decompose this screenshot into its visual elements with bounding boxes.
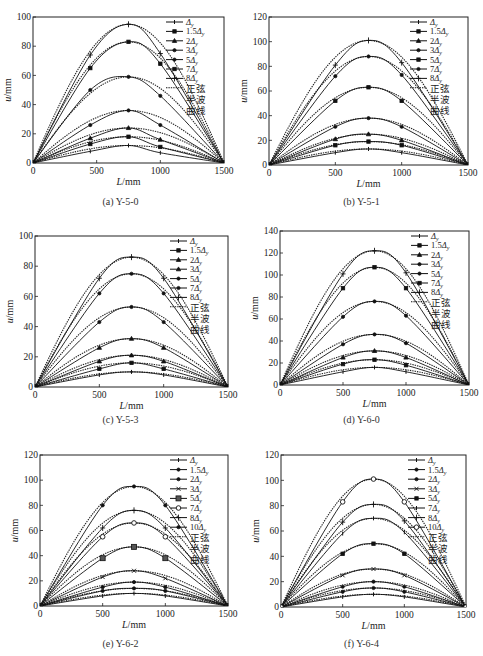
svg-text:100: 100 [265,476,280,486]
svg-text:0: 0 [262,160,267,170]
chart-svg-a: 050010001500020406080100L/mmu/mmΔy1.5Δy2… [0,0,241,195]
svg-text:0: 0 [33,601,38,611]
svg-text:120: 120 [264,248,279,258]
svg-text:正弦: 正弦 [430,83,450,94]
chart-svg-f: 050010001500020406080100120L/mmu/mmΔy1.5… [241,430,483,630]
svg-text:20: 20 [258,136,268,146]
svg-text:120: 120 [265,450,280,460]
svg-text:60: 60 [269,314,279,324]
svg-text:1500: 1500 [459,168,478,178]
svg-text:20: 20 [269,358,279,368]
svg-text:20: 20 [29,576,39,586]
svg-text:0: 0 [267,168,272,178]
svg-text:80: 80 [269,292,279,302]
svg-text:0: 0 [278,388,283,398]
svg-text:40: 40 [22,100,32,110]
panel-caption-c: (c) Y-5-3 [0,414,241,425]
svg-text:100: 100 [253,37,268,47]
svg-text:正弦: 正弦 [431,297,451,308]
chart-svg-e: 050010001500020406080100120L/mmu/mmΔy1.5… [0,430,241,630]
svg-text:1500: 1500 [219,609,238,619]
svg-text:L/mm: L/mm [116,176,141,187]
svg-text:20: 20 [270,577,280,587]
svg-text:100: 100 [19,231,34,241]
svg-text:1000: 1000 [392,168,411,178]
svg-text:半波: 半波 [190,313,210,324]
svg-text:40: 40 [270,552,280,562]
svg-text:500: 500 [328,168,343,178]
svg-text:L/mm: L/mm [362,398,387,409]
chart-panel-a: 050010001500020406080100L/mmu/mmΔy1.5Δy2… [0,0,241,215]
svg-text:40: 40 [269,336,279,346]
svg-text:140: 140 [264,226,279,236]
svg-text:80: 80 [22,41,32,51]
svg-text:1500: 1500 [215,166,234,176]
svg-text:L/mm: L/mm [121,619,146,630]
svg-text:8Δy: 8Δy [190,292,202,303]
chart-svg-d: 050010001500020406080100120140L/mmu/mmΔy… [241,215,483,410]
svg-text:8Δy: 8Δy [431,287,443,298]
svg-text:500: 500 [90,166,105,176]
svg-text:正弦: 正弦 [186,83,206,94]
svg-text:100: 100 [24,475,39,485]
svg-text:1500: 1500 [219,390,238,400]
chart-panel-d: 050010001500020406080100120140L/mmu/mmΔy… [241,215,482,430]
svg-text:1500: 1500 [457,610,476,620]
svg-text:u/mm: u/mm [9,519,20,543]
svg-text:500: 500 [92,390,107,400]
svg-text:0: 0 [26,158,31,168]
panel-caption-a: (a) Y-5-0 [0,196,241,207]
svg-text:500: 500 [96,609,111,619]
svg-text:60: 60 [24,292,34,302]
svg-text:曲线: 曲线 [430,105,450,116]
svg-text:u/mm: u/mm [241,79,249,103]
svg-text:80: 80 [258,62,268,72]
svg-text:0: 0 [279,610,284,620]
chart-panel-e: 050010001500020406080100120L/mmu/mmΔy1.5… [0,430,241,656]
svg-text:u/mm: u/mm [4,300,15,324]
chart-panel-c: 050010001500020406080100L/mmu/mmΔy1.5Δy2… [0,215,241,430]
svg-text:正弦: 正弦 [190,532,210,543]
svg-text:60: 60 [258,86,268,96]
svg-text:40: 40 [24,322,34,332]
svg-text:曲线: 曲线 [186,105,206,116]
svg-text:1000: 1000 [156,609,175,619]
svg-text:半波: 半波 [428,543,448,554]
svg-text:0: 0 [28,382,33,392]
svg-text:半波: 半波 [190,543,210,554]
svg-text:半波: 半波 [431,308,451,319]
svg-text:500: 500 [336,388,351,398]
svg-text:40: 40 [29,551,39,561]
svg-text:1000: 1000 [154,390,173,400]
svg-text:80: 80 [270,501,280,511]
svg-text:0: 0 [273,380,278,390]
svg-text:0: 0 [38,609,43,619]
svg-text:10Δy: 10Δy [190,522,207,533]
svg-text:曲线: 曲线 [190,554,210,565]
svg-text:120: 120 [24,450,39,460]
svg-text:正弦: 正弦 [190,302,210,313]
chart-panel-b: 050010001500020406080100120L/mmu/mmΔy1.5… [241,0,482,215]
svg-text:0: 0 [274,602,279,612]
panel-caption-f: (f) Y-6-4 [241,638,482,649]
svg-text:u/mm: u/mm [2,78,13,102]
svg-text:曲线: 曲线 [428,554,448,565]
svg-text:40: 40 [258,111,268,121]
svg-text:100: 100 [17,12,32,22]
svg-text:L/mm: L/mm [119,400,144,410]
svg-text:1500: 1500 [460,388,479,398]
svg-text:L/mm: L/mm [356,178,381,189]
svg-text:8Δy: 8Δy [186,73,198,84]
svg-text:u/mm: u/mm [249,296,260,320]
svg-text:8Δy: 8Δy [430,73,442,84]
panel-caption-d: (d) Y-6-0 [241,414,482,425]
chart-svg-c: 050010001500020406080100L/mmu/mmΔy1.5Δy2… [0,215,241,410]
svg-text:60: 60 [22,71,32,81]
svg-text:100: 100 [264,270,279,280]
svg-text:60: 60 [29,526,39,536]
svg-text:500: 500 [336,610,351,620]
svg-text:120: 120 [253,12,268,22]
svg-text:20: 20 [22,129,32,139]
svg-text:0: 0 [33,390,38,400]
svg-text:1000: 1000 [151,166,170,176]
